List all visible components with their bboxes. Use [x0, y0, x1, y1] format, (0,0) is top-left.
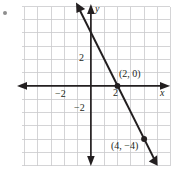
graph-figure: y x 2 −2 −2 2 (2, 0) (4, −4): [0, 0, 174, 172]
x-tick-label-neg2: −2: [55, 89, 66, 99]
point-label-4-neg4: (4, −4): [111, 141, 138, 151]
x-axis: [17, 82, 170, 90]
y-axis-label: y: [95, 4, 99, 14]
y-tick-label-2: 2: [79, 53, 84, 63]
point-marker-4-neg4: [141, 136, 147, 142]
x-tick-label-2: 2: [113, 88, 118, 98]
y-tick-label-neg2: −2: [74, 103, 85, 113]
x-axis-label: x: [160, 88, 164, 98]
point-label-2-0: (2, 0): [119, 69, 141, 79]
coordinate-plane-svg: [0, 0, 174, 172]
